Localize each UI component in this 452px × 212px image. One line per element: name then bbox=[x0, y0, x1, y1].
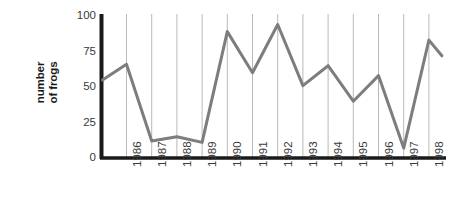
x-tick-label: 1990 bbox=[232, 141, 243, 167]
x-tick-label: 1998 bbox=[434, 141, 445, 167]
x-tick-label: 1988 bbox=[182, 141, 193, 167]
x-tick-label: 1986 bbox=[132, 141, 143, 167]
x-tick-label: 1991 bbox=[258, 141, 269, 167]
x-tick-label: 1997 bbox=[409, 141, 420, 167]
x-tick-label: 1995 bbox=[358, 141, 369, 167]
x-tick-label: 1987 bbox=[157, 141, 168, 167]
x-tick-label: 1994 bbox=[333, 141, 344, 167]
plot-area bbox=[0, 0, 452, 212]
frog-population-line-chart: number of frogs 0255075100 1986198719881… bbox=[0, 0, 452, 212]
x-tick-label: 1992 bbox=[283, 141, 294, 167]
data-series-line bbox=[103, 25, 442, 149]
x-tick-label: 1989 bbox=[207, 141, 218, 167]
x-tick-label: 1993 bbox=[308, 141, 319, 167]
x-tick-label: 1996 bbox=[384, 141, 395, 167]
